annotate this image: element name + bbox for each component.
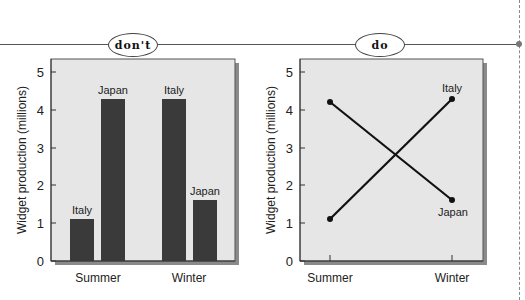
- point-japan-summer: [327, 99, 333, 105]
- x-category-label: Summer: [75, 271, 120, 285]
- y-tick-label: 2: [286, 178, 293, 193]
- bar-summer-japan: [101, 99, 125, 261]
- y-tick-label: 4: [37, 103, 44, 118]
- y-axis-label: Widget production (millions): [15, 86, 29, 234]
- point-italy-winter: [449, 96, 455, 102]
- x-category-label: Summer: [307, 271, 352, 285]
- y-tick-label: 2: [37, 178, 44, 193]
- point-japan-winter: [449, 197, 455, 203]
- bar-label-japan: Japan: [98, 84, 128, 96]
- y-tick-label: 0: [286, 254, 293, 269]
- bar-winter-italy: [162, 99, 186, 261]
- bar-winter-japan: [193, 200, 217, 261]
- bar-label-japan: Japan: [190, 185, 220, 197]
- y-axis-label: Widget production (millions): [264, 86, 278, 234]
- bar-chart: 0 1 2 3 4 5 Widget production (millions)…: [15, 59, 239, 285]
- y-tick-label: 1: [37, 216, 44, 231]
- y-tick-label: 4: [286, 103, 293, 118]
- y-tick-label: 5: [286, 65, 293, 80]
- bar-label-italy: Italy: [164, 84, 185, 96]
- y-tick-label: 3: [37, 141, 44, 156]
- x-category-label: Winter: [435, 271, 470, 285]
- y-tick-label: 5: [37, 65, 44, 80]
- y-tick-label: 0: [37, 254, 44, 269]
- line-chart: 0 1 2 3 4 5 Widget production (millions)…: [264, 59, 487, 285]
- y-tick-label: 1: [286, 216, 293, 231]
- bar-label-italy: Italy: [72, 204, 93, 216]
- line-label-japan: Japan: [438, 206, 468, 218]
- charts-canvas: 0 1 2 3 4 5 Widget production (millions)…: [0, 0, 525, 300]
- line-label-italy: Italy: [442, 82, 463, 94]
- bar-summer-italy: [70, 219, 94, 261]
- x-category-label: Winter: [172, 271, 207, 285]
- point-italy-summer: [327, 216, 333, 222]
- y-tick-label: 3: [286, 141, 293, 156]
